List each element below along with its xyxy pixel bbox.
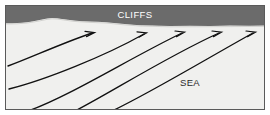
- wave-refraction-diagram: CLIFFS SEA: [0, 0, 270, 115]
- diagram-canvas: CLIFFS SEA: [0, 0, 270, 115]
- sea-label: SEA: [180, 77, 200, 88]
- cliffs-label: CLIFFS: [117, 9, 152, 20]
